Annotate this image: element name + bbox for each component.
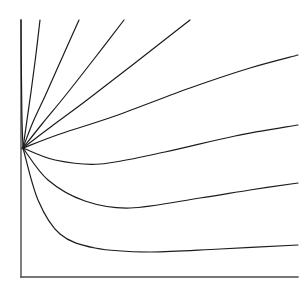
node-point bbox=[21, 146, 24, 149]
phase-portrait-figure bbox=[0, 0, 308, 289]
plot-background bbox=[0, 0, 308, 289]
plot-canvas bbox=[0, 0, 308, 289]
convergence-node bbox=[21, 146, 24, 149]
